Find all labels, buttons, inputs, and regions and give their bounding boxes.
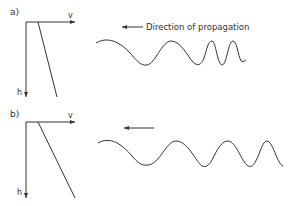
panel-a: a) v h Direction of propagation [10, 7, 249, 97]
velocity-profile-b [38, 122, 75, 198]
panel-a-label: a) [10, 7, 19, 17]
axis-v-label-b: v [68, 111, 73, 120]
direction-label: Direction of propagation [146, 22, 249, 32]
axis-h-label-a: h [17, 88, 22, 97]
wave-b [98, 140, 283, 166]
velocity-depth-axes-a: v h [17, 11, 75, 97]
velocity-depth-axes-b: v h [17, 111, 75, 198]
diagram-canvas: a) v h Direction of propagation b) v h [0, 0, 305, 206]
propagation-arrow-a: Direction of propagation [122, 22, 249, 32]
panel-b: b) v h [10, 109, 283, 198]
axis-v-label-a: v [68, 11, 73, 20]
wave-a [96, 40, 246, 65]
panel-b-label: b) [10, 109, 19, 119]
velocity-profile-a [38, 22, 57, 97]
axis-h-label-b: h [17, 188, 22, 197]
